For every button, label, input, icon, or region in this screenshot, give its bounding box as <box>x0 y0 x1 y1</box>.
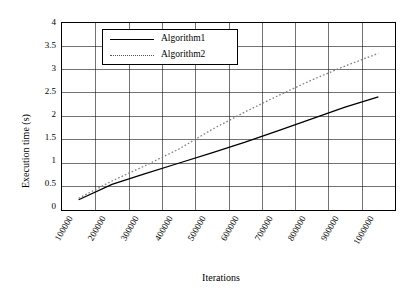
legend-swatch-algorithm1 <box>110 39 154 40</box>
y-tick-label: 1.5 <box>34 132 56 142</box>
legend: Algorithm1 Algorithm2 <box>102 29 238 65</box>
y-tick-label: 3.5 <box>34 40 56 50</box>
y-tick-label: 0 <box>34 201 56 211</box>
x-tick-label: 700000 <box>242 214 275 261</box>
y-tick-label: 2 <box>34 109 56 119</box>
x-tick-label: 100000 <box>42 214 75 261</box>
x-tick-label: 900000 <box>308 214 341 261</box>
chart-container: Execution time (s) 0 0.5 1 1.5 2 2.5 3 3… <box>0 0 411 299</box>
series-line-algorithm1 <box>79 97 379 200</box>
y-tick-label: 2.5 <box>34 86 56 96</box>
y-tick-label: 0.5 <box>34 178 56 188</box>
legend-swatch-algorithm2 <box>110 55 154 56</box>
x-tick-label: 600000 <box>208 214 241 261</box>
series-line-algorithm2 <box>79 53 379 198</box>
x-tick-label: 200000 <box>75 214 108 261</box>
legend-label-algorithm2: Algorithm2 <box>161 49 205 59</box>
y-axis-title: Execution time (s) <box>20 114 31 188</box>
x-tick-label: 300000 <box>108 214 141 261</box>
x-axis-title: Iterations <box>161 272 281 283</box>
y-tick-label: 3 <box>34 63 56 73</box>
legend-label-algorithm1: Algorithm1 <box>161 33 205 43</box>
x-tick-label: 1000000 <box>340 214 376 266</box>
x-tick-label: 400000 <box>142 214 175 261</box>
y-tick-label: 1 <box>34 155 56 165</box>
plot-area: Algorithm1 Algorithm2 <box>61 22 396 211</box>
y-tick-label: 4 <box>34 17 56 27</box>
x-tick-label: 500000 <box>175 214 208 261</box>
x-tick-label: 800000 <box>275 214 308 261</box>
